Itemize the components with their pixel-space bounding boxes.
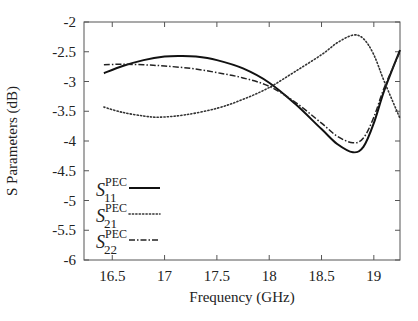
- y-axis-title: S Parameters (dB): [4, 86, 21, 196]
- y-tick-label: -2: [64, 14, 77, 30]
- x-tick-label: 19: [366, 268, 381, 284]
- s-parameters-chart: -2-2.5-3-3.5-4-4.5-5-5.5-6 16.51717.5181…: [0, 0, 418, 321]
- x-tick-label: 18: [262, 268, 277, 284]
- y-tick-label: -4.5: [52, 163, 76, 179]
- legend-superscript: PEC: [105, 227, 127, 241]
- x-tick-label: 16.5: [99, 268, 125, 284]
- y-tick-label: -4: [64, 133, 77, 149]
- plot-frame: [84, 22, 400, 260]
- series-layer: [104, 35, 400, 153]
- y-tick-label: -5.5: [52, 222, 76, 238]
- y-tick-label: -5: [64, 193, 77, 209]
- y-tick-label: -2.5: [52, 44, 76, 60]
- series-line-21: [104, 35, 400, 119]
- y-tick-label: -3: [64, 74, 77, 90]
- series-line-22: [104, 52, 400, 143]
- plot-area-border: [84, 22, 400, 260]
- y-tick-label: -3.5: [52, 103, 76, 119]
- legend-superscript: PEC: [105, 175, 127, 189]
- legend-subscript: 22: [104, 242, 117, 257]
- legend-item-s22: SPEC22: [96, 227, 160, 257]
- legend-superscript: PEC: [105, 201, 127, 215]
- y-tick-label: -6: [64, 252, 77, 268]
- series-line-11: [104, 50, 400, 152]
- x-tick-label: 18.5: [308, 268, 334, 284]
- x-tick-label: 17.5: [204, 268, 230, 284]
- x-tick-label: 17: [157, 268, 173, 284]
- x-axis-title: Frequency (GHz): [189, 289, 294, 306]
- legend: SPEC11SPEC21SPEC22: [96, 175, 160, 257]
